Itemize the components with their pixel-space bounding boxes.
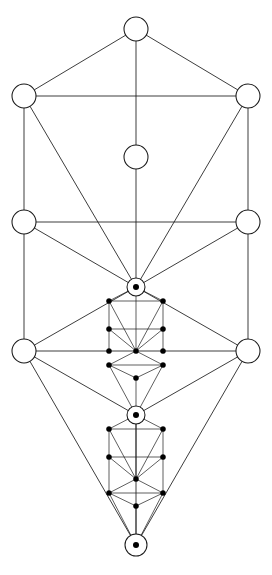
node-dot-st1-hod2[interactable] (106, 362, 111, 367)
node-dot-st1-netzach[interactable] (160, 348, 165, 353)
sephira-core-malkuth (133, 542, 139, 548)
sephira-geburah[interactable] (12, 210, 36, 234)
node-dot-st2-netzach[interactable] (160, 490, 165, 495)
node-dot-st2-chokmah[interactable] (160, 426, 165, 431)
node-dot-st2-binah[interactable] (106, 426, 111, 431)
sephira-daath[interactable] (124, 145, 148, 169)
node-dot-st2-yesod[interactable] (133, 503, 138, 508)
path-geburah-to-tiphareth (24, 222, 136, 287)
node-dot-st1-chesed[interactable] (160, 326, 165, 331)
node-dot-st1-yesod[interactable] (133, 375, 138, 380)
node-dot-st1-binah[interactable] (106, 298, 111, 303)
path-st1-hod2-to-st1-yesod (109, 365, 136, 378)
path-st2-chokmah-to-st2-tiphareth (136, 429, 163, 479)
node-dot-st2-hod[interactable] (106, 490, 111, 495)
path-kether-to-binah (24, 29, 136, 96)
node-dot-st1-hod[interactable] (106, 348, 111, 353)
path-st2-netzach-to-st2-tiphareth (136, 479, 163, 493)
path-chesed-to-tiphareth (136, 222, 248, 287)
sephira-binah[interactable] (12, 84, 36, 108)
node-dot-st1-netzach2[interactable] (160, 362, 165, 367)
path-kether-to-chokmah (136, 29, 248, 96)
sephira-core-yesod (133, 412, 139, 418)
path-st2-binah-to-st2-tiphareth (109, 429, 136, 479)
path-hod-to-yesod (24, 351, 136, 415)
path-st2-netzach-to-st2-yesod (136, 493, 163, 506)
node-dot-st1-tiphareth[interactable] (133, 348, 138, 353)
tree-of-life-canvas (0, 0, 272, 575)
path-st1-geburah-to-st1-tiphareth (109, 329, 136, 351)
path-st1-netzach2-to-st1-yesod (136, 365, 163, 378)
path-hod-to-tiphareth (24, 287, 136, 351)
path-binah-to-tiphareth (24, 96, 136, 287)
node-dot-st1-geburah[interactable] (106, 326, 111, 331)
path-st2-hod-to-st2-tiphareth (109, 479, 136, 493)
path-st1-chesed-to-st1-tiphareth (136, 329, 163, 351)
path-netzach-to-tiphareth (136, 287, 248, 351)
path-netzach-to-yesod (136, 351, 248, 415)
node-dot-st2-geburah[interactable] (106, 454, 111, 459)
path-st1-chokmah-to-st1-tiphareth (136, 301, 163, 351)
sephira-kether[interactable] (124, 17, 148, 41)
path-st2-hod-to-st2-yesod (109, 493, 136, 506)
path-st2-geburah-to-st2-tiphareth (109, 457, 136, 479)
node-dot-st1-chokmah[interactable] (160, 298, 165, 303)
sephira-chesed[interactable] (236, 210, 260, 234)
path-st1-netzach2-to-st1-tiphareth (136, 351, 163, 365)
path-chokmah-to-tiphareth (136, 96, 248, 287)
sephira-chokmah[interactable] (236, 84, 260, 108)
tree-of-life-diagram (0, 0, 272, 575)
node-dot-st2-tiphareth[interactable] (133, 476, 138, 481)
sephira-hod[interactable] (12, 339, 36, 363)
path-st1-hod2-to-st1-tiphareth (109, 351, 136, 365)
sephira-core-tiphareth (133, 284, 139, 290)
path-st2-chesed-to-st2-tiphareth (136, 457, 163, 479)
sephira-netzach[interactable] (236, 339, 260, 363)
node-dot-st2-chesed[interactable] (160, 454, 165, 459)
path-st1-binah-to-st1-tiphareth (109, 301, 136, 351)
